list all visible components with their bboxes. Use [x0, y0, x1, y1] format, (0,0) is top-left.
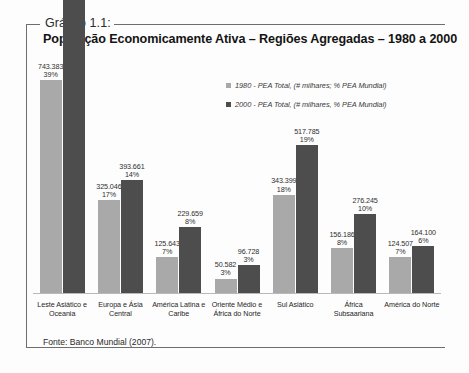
bar-percent-label: 10% — [358, 205, 372, 213]
bar — [156, 257, 178, 293]
bar — [296, 145, 318, 293]
bar-label-stack: 156.1868% — [329, 231, 354, 248]
bar-group: 125.6437%229.6598% — [156, 58, 201, 293]
category-label: América do Norte — [383, 300, 441, 309]
category-label: África Subsaariana — [324, 300, 382, 318]
bar-column: 39% — [63, 0, 85, 293]
bar-group: 124.5077%164.1006% — [389, 58, 434, 293]
bar-label-stack: 325.04617% — [96, 183, 121, 200]
bar-percent-label: 3% — [220, 269, 230, 277]
bar-column: 50.5823% — [215, 279, 237, 293]
bar-percent-label: 6% — [418, 237, 428, 245]
bar-percent-label: 39% — [44, 71, 58, 79]
bar — [63, 0, 85, 293]
bar-group: 50.5823%96.7283% — [215, 58, 260, 293]
category-label: América Latina e Caribe — [150, 300, 208, 318]
bar-label-stack: 743.38339% — [38, 63, 63, 80]
bar-group: 343.39918%517.78519% — [273, 58, 318, 293]
bar-column: 743.38339% — [40, 80, 62, 293]
bar — [238, 265, 260, 293]
bar — [121, 180, 143, 293]
axis-baseline — [33, 293, 441, 294]
bar — [98, 200, 120, 293]
category-label: Leste Asiático e Oceania — [33, 300, 91, 318]
bar-label-stack: 50.5823% — [215, 261, 236, 278]
bar — [354, 214, 376, 293]
figure-container: Gráfico 1.1: População Economicamente At… — [0, 0, 469, 373]
category-label: Sul Asiático — [266, 300, 324, 309]
bar-column: 156.1868% — [331, 248, 353, 293]
bar-label-stack: 343.39918% — [271, 177, 296, 194]
bar — [412, 246, 434, 293]
bar-column: 124.5077% — [389, 257, 411, 293]
bar-group: 156.1868%276.24510% — [331, 58, 376, 293]
bar — [331, 248, 353, 293]
bar-percent-label: 14% — [125, 171, 139, 179]
bar-column: 96.7283% — [238, 265, 260, 293]
bar-label-stack: 96.7283% — [238, 248, 259, 265]
bar-percent-label: 8% — [337, 239, 347, 247]
bar — [215, 279, 237, 293]
frame-border-top-right — [101, 24, 445, 25]
bar — [273, 195, 295, 293]
frame-border-top-left — [26, 24, 40, 25]
bar-percent-label: 18% — [277, 186, 291, 194]
bar-label-stack: 124.5077% — [388, 240, 413, 257]
bar — [389, 257, 411, 293]
bar — [40, 80, 62, 293]
bar-column: 393.66114% — [121, 180, 143, 293]
bar-column: 164.1006% — [412, 246, 434, 293]
plot-area: 743.38339%39%325.04617%393.66114%125.643… — [33, 58, 441, 293]
bar-percent-label: 7% — [395, 248, 405, 256]
category-label: Oriente Médio e África do Norte — [208, 300, 266, 318]
bar-percent-label: 7% — [162, 248, 172, 256]
bar-label-stack: 164.1006% — [411, 229, 436, 246]
bar-column: 517.78519% — [296, 145, 318, 293]
source-note: Fonte: Banco Mundial (2007). — [43, 337, 156, 347]
bar-column: 325.04617% — [98, 200, 120, 293]
bar-column: 229.6598% — [179, 227, 201, 293]
bar-percent-label: 8% — [185, 218, 195, 226]
bar-label-stack: 125.6437% — [155, 240, 180, 257]
bar-percent-label: 19% — [300, 136, 314, 144]
bar-label-stack: 229.6598% — [178, 210, 203, 227]
bar-column: 276.24510% — [354, 214, 376, 293]
category-label: Europa e Ásia Central — [91, 300, 149, 318]
bar-column: 343.39918% — [273, 195, 295, 293]
bar-percent-label: 17% — [102, 191, 116, 199]
chart-title: População Economicamente Ativa – Regiões… — [43, 32, 457, 46]
bar-column: 125.6437% — [156, 257, 178, 293]
bar-group: 743.38339%39% — [40, 58, 85, 293]
bar-label-stack: 517.78519% — [294, 128, 319, 145]
bar — [179, 227, 201, 293]
category-axis-labels: Leste Asiático e OceaniaEuropa e Ásia Ce… — [33, 300, 441, 328]
frame-border-bottom — [26, 347, 445, 348]
bar-label-stack: 276.24510% — [352, 197, 377, 214]
bar-group: 325.04617%393.66114% — [98, 58, 143, 293]
frame-border-left — [26, 24, 27, 347]
bar-label-stack: 393.66114% — [119, 163, 144, 180]
bar-percent-label: 3% — [243, 256, 253, 264]
